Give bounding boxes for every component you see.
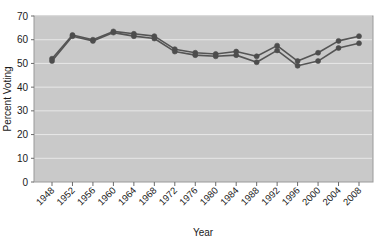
plot-background — [34, 16, 373, 182]
data-point — [111, 30, 116, 35]
data-point — [90, 38, 95, 43]
data-point — [70, 34, 75, 39]
y-tick-label: 60 — [17, 34, 29, 45]
data-point — [254, 54, 259, 59]
data-point — [295, 63, 300, 68]
data-point — [50, 59, 55, 64]
data-point — [336, 46, 341, 51]
data-point — [275, 43, 280, 48]
y-tick-label: 20 — [17, 129, 29, 140]
x-axis-label: Year — [193, 227, 214, 238]
y-tick-label: 10 — [17, 153, 29, 164]
data-point — [336, 38, 341, 43]
data-point — [152, 36, 157, 41]
data-point — [234, 53, 239, 58]
data-point — [172, 49, 177, 54]
data-point — [357, 41, 362, 46]
y-tick-label: 70 — [17, 11, 29, 22]
plot-area — [34, 16, 373, 182]
data-point — [254, 60, 259, 65]
y-tick-label: 0 — [22, 177, 28, 188]
y-tick-label: 50 — [17, 58, 29, 69]
data-point — [316, 50, 321, 55]
data-point — [131, 34, 136, 39]
chart-figure: 010203040506070 194819521956196019641968… — [0, 0, 380, 244]
y-axis-label: Percent Voting — [2, 66, 13, 131]
y-tick-label: 40 — [17, 82, 29, 93]
data-point — [357, 34, 362, 39]
data-point — [193, 53, 198, 58]
data-point — [316, 59, 321, 64]
y-tick-label: 30 — [17, 105, 29, 116]
data-point — [213, 54, 218, 59]
data-point — [275, 48, 280, 53]
line-chart: 010203040506070 194819521956196019641968… — [0, 0, 380, 244]
data-point — [295, 59, 300, 64]
